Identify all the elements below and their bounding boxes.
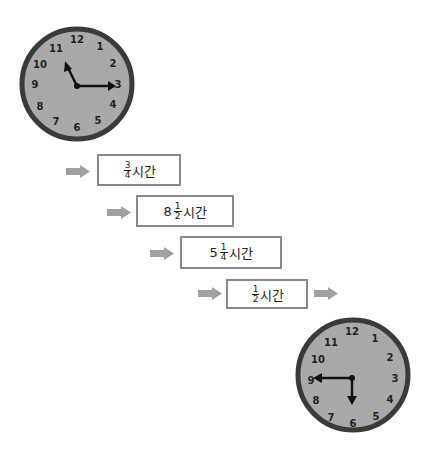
svg-text:4: 4 xyxy=(110,99,117,110)
step-whole: 5 xyxy=(209,245,217,260)
step-fraction: 1 4 xyxy=(220,243,228,262)
svg-text:10: 10 xyxy=(33,59,47,70)
step-unit: 시간 xyxy=(260,285,284,304)
svg-text:3: 3 xyxy=(392,373,399,384)
svg-text:8: 8 xyxy=(313,395,320,406)
clock-number-12: 12 xyxy=(70,34,84,45)
svg-text:5: 5 xyxy=(373,411,380,422)
end-clock: 12 1 2 3 4 5 6 7 8 9 10 11 xyxy=(294,314,414,438)
step-box-1: 3 4 시간 xyxy=(97,154,181,186)
svg-text:8: 8 xyxy=(37,101,44,112)
arrow-right-icon xyxy=(66,165,90,178)
step-box-2: 8 1 2 시간 xyxy=(136,195,234,227)
svg-text:2: 2 xyxy=(110,58,117,69)
svg-text:6: 6 xyxy=(74,122,81,133)
svg-text:9: 9 xyxy=(32,79,39,90)
step-box-3: 5 1 4 시간 xyxy=(180,236,282,269)
svg-text:11: 11 xyxy=(324,337,338,348)
step-fraction: 3 4 xyxy=(124,161,132,180)
clock-center-dot xyxy=(349,375,355,381)
arrow-right-icon xyxy=(314,287,338,300)
arrow-right-icon xyxy=(198,287,222,300)
svg-text:2: 2 xyxy=(387,352,394,363)
svg-text:1: 1 xyxy=(372,333,379,344)
svg-text:4: 4 xyxy=(387,394,394,405)
svg-text:7: 7 xyxy=(53,116,60,127)
step-fraction: 1 2 xyxy=(252,285,260,304)
cropped-instruction-text: • •••• •••• ••• ••• ••••• •••• xyxy=(28,0,252,6)
svg-text:6: 6 xyxy=(350,418,357,429)
step-whole: 8 xyxy=(163,204,171,219)
step-box-4: 1 2 시간 xyxy=(226,279,308,309)
svg-text:11: 11 xyxy=(49,43,63,54)
svg-text:9: 9 xyxy=(308,375,315,386)
step-unit: 시간 xyxy=(229,243,253,262)
clock-number-12: 12 xyxy=(345,326,359,337)
step-fraction: 1 2 xyxy=(174,202,182,221)
svg-text:1: 1 xyxy=(97,41,104,52)
step-unit: 시간 xyxy=(132,161,156,180)
step-unit: 시간 xyxy=(183,202,207,221)
svg-text:7: 7 xyxy=(328,412,335,423)
svg-text:5: 5 xyxy=(95,115,102,126)
start-clock: 12 1 2 3 4 5 6 7 8 9 10 11 xyxy=(18,24,138,146)
clock-center-dot xyxy=(74,83,80,89)
arrow-right-icon xyxy=(107,206,131,219)
svg-text:10: 10 xyxy=(311,354,325,365)
arrow-right-icon xyxy=(150,247,174,260)
svg-text:3: 3 xyxy=(115,79,122,90)
